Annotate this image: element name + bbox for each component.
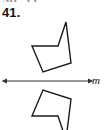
figure-root: 36. 11 41. m <box>0 0 106 130</box>
geometry-drawing <box>0 0 106 130</box>
geometry-svg <box>0 0 106 130</box>
preimage-polygon <box>32 22 71 72</box>
line-label-m: m <box>92 74 100 86</box>
image-polygon <box>32 90 71 130</box>
